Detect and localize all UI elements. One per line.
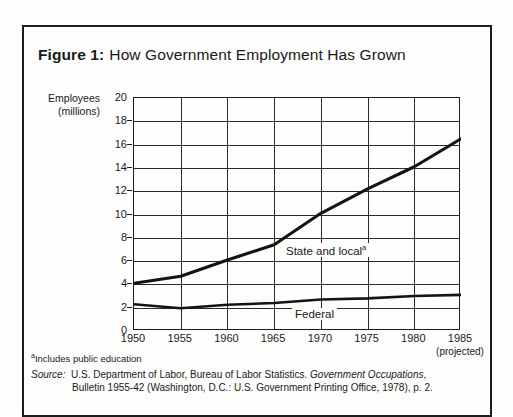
chart-plot-area <box>133 97 460 330</box>
source-publisher: U.S. Department of Labor, Bureau of Labo… <box>71 369 307 380</box>
figure-title: Figure 1:How Government Employment Has G… <box>38 46 406 64</box>
series-label-federal: Federal <box>292 308 337 320</box>
x-tick-label: 1950 <box>121 332 145 344</box>
y-tick-label: 12 <box>101 184 127 196</box>
source-line-2: Bulletin 1955-42 (Washington, D.C.: U.S.… <box>31 382 483 395</box>
y-tick-mark <box>127 190 132 191</box>
x-tick-label: 1975 <box>354 332 378 344</box>
y-axis-title-line-1: Employees <box>22 92 100 105</box>
y-tick-label: 2 <box>101 301 127 313</box>
figure-caption: How Government Employment Has Grown <box>109 46 405 63</box>
x-axis-ticks: 1950 1955 1960 1965 1970 1975 1980 1985 <box>133 332 460 348</box>
series-line-state-and-local <box>134 139 461 283</box>
figure-number: Figure 1: <box>38 46 104 63</box>
series-label-state-and-local: State and locala <box>283 243 369 257</box>
series-footnote-marker: a <box>362 243 366 252</box>
y-tick-label: 6 <box>101 254 127 266</box>
x-tick-label: 1955 <box>167 332 191 344</box>
y-tick-mark <box>127 214 132 215</box>
source-title: Government Occupations <box>310 369 423 380</box>
y-tick-mark <box>127 237 132 238</box>
series-line-federal <box>134 295 461 308</box>
y-tick-mark <box>127 167 132 168</box>
y-tick-label: 20 <box>101 91 127 103</box>
x-tick-label: 1980 <box>401 332 425 344</box>
x-tick-label: 1985 <box>448 332 472 344</box>
y-tick-label: 18 <box>101 114 127 126</box>
y-tick-label: 14 <box>101 161 127 173</box>
chart-series-layer <box>134 98 461 331</box>
y-tick-mark <box>127 307 132 308</box>
y-tick-mark <box>127 120 132 121</box>
figure-source: Source: U.S. Department of Labor, Bureau… <box>31 369 483 394</box>
footnote-text: Includes public education <box>35 353 142 364</box>
source-line-1: Source: U.S. Department of Labor, Bureau… <box>31 369 483 382</box>
y-tick-label: 8 <box>101 231 127 243</box>
y-axis-title-line-2: (millions) <box>22 105 100 118</box>
y-tick-mark <box>127 260 132 261</box>
y-tick-label: 16 <box>101 138 127 150</box>
source-comma: , <box>423 369 426 380</box>
y-axis-title: Employees (millions) <box>22 92 100 118</box>
source-prefix: Source: <box>31 369 65 380</box>
y-tick-label: 4 <box>101 277 127 289</box>
y-axis-ticks: 20 18 16 14 12 10 8 6 4 2 0 <box>99 97 127 330</box>
y-tick-label: 10 <box>101 208 127 220</box>
y-tick-mark <box>127 283 132 284</box>
y-tick-mark <box>127 144 132 145</box>
projected-annotation: (projected) <box>436 346 484 357</box>
x-tick-label: 1965 <box>261 332 285 344</box>
x-tick-label: 1960 <box>214 332 238 344</box>
figure-footnote: aIncludes public education <box>31 352 142 364</box>
x-tick-label: 1970 <box>308 332 332 344</box>
series-label-text: State and local <box>286 245 362 257</box>
